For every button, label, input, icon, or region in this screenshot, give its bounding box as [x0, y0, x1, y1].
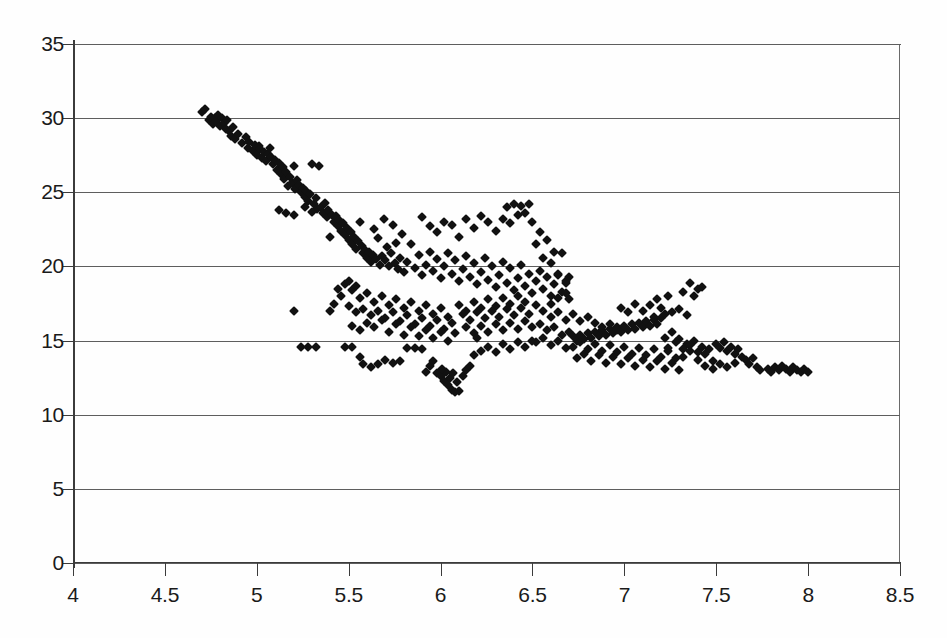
data-point — [557, 248, 567, 258]
data-point — [675, 365, 685, 375]
data-point — [505, 218, 515, 228]
data-point — [421, 300, 431, 310]
y-tick-label: 0 — [53, 551, 64, 575]
data-point — [454, 276, 464, 286]
x-tick-label: 8.5 — [886, 583, 914, 607]
data-point — [505, 263, 515, 273]
data-point — [397, 229, 407, 239]
data-point — [373, 233, 383, 243]
y-tick-label: 5 — [53, 477, 64, 501]
x-tick-mark — [900, 563, 901, 576]
y-tick-mark — [63, 415, 75, 416]
x-tick-mark — [349, 563, 350, 576]
data-point — [483, 217, 493, 227]
gridline-y — [73, 563, 900, 564]
data-point — [483, 294, 493, 304]
data-point — [634, 343, 644, 353]
y-tick-mark — [63, 341, 75, 342]
y-tick-mark — [63, 44, 75, 45]
data-point — [443, 336, 453, 346]
gridline-y — [73, 489, 900, 490]
data-point — [391, 294, 401, 304]
data-point — [678, 287, 688, 297]
data-point — [513, 324, 523, 334]
data-point — [542, 272, 552, 282]
data-point — [550, 279, 560, 289]
x-tick-label: 5 — [251, 583, 262, 607]
data-point — [399, 267, 409, 277]
data-point — [568, 309, 578, 319]
data-point — [436, 303, 446, 313]
data-point — [289, 306, 299, 316]
data-point — [586, 356, 596, 366]
data-point — [414, 331, 424, 341]
gridline-y — [73, 415, 900, 416]
y-tick-mark — [63, 266, 75, 267]
data-point — [406, 297, 416, 307]
x-tick-mark — [808, 563, 809, 576]
data-point — [454, 232, 464, 242]
data-point — [527, 217, 537, 227]
cut-off-caption-strip — [0, 612, 947, 638]
y-tick-mark — [63, 118, 75, 119]
x-tick-mark — [441, 563, 442, 576]
data-point — [410, 263, 420, 273]
data-point — [450, 256, 460, 266]
data-point — [465, 272, 475, 282]
y-tick-label: 10 — [41, 403, 64, 427]
data-point — [502, 278, 512, 288]
data-point — [450, 328, 460, 338]
data-point — [388, 220, 398, 230]
data-point — [476, 267, 486, 277]
data-point — [520, 281, 530, 291]
data-point — [616, 359, 626, 369]
y-tick-label: 20 — [41, 254, 64, 278]
y-tick-mark — [63, 489, 75, 490]
data-point — [494, 270, 504, 280]
data-point — [645, 300, 655, 310]
data-point — [520, 208, 530, 218]
gridline-y — [73, 266, 900, 267]
data-point — [491, 282, 501, 292]
data-point — [432, 227, 442, 237]
data-point — [645, 362, 655, 372]
x-tick-mark — [716, 563, 717, 576]
data-point — [311, 342, 321, 352]
plot-area: 05101520253035 — [73, 44, 900, 563]
gridline-y — [73, 192, 900, 193]
x-tick-mark — [624, 563, 625, 576]
data-point — [513, 273, 523, 283]
x-tick-label: 6 — [435, 583, 446, 607]
data-point — [660, 364, 670, 374]
data-point — [379, 214, 389, 224]
y-tick-label: 30 — [41, 106, 64, 130]
data-point — [399, 330, 409, 340]
x-tick-label: 5.5 — [335, 583, 363, 607]
x-tick-label: 7 — [619, 583, 630, 607]
data-point — [436, 273, 446, 283]
data-point — [469, 223, 479, 233]
data-point — [461, 251, 471, 261]
data-point — [505, 345, 515, 355]
scatter-chart-figure: 05101520253035 44.555.566.577.588.5 — [0, 0, 947, 638]
data-point — [432, 254, 442, 264]
data-point — [336, 291, 346, 301]
gridline-y — [73, 118, 900, 119]
x-tick-label: 6.5 — [518, 583, 546, 607]
data-point — [289, 161, 299, 171]
data-point — [667, 327, 677, 337]
x-tick-mark — [532, 563, 533, 576]
x-tick-label: 4.5 — [151, 583, 179, 607]
data-point — [447, 269, 457, 279]
gridline-y — [73, 44, 900, 45]
data-point — [384, 327, 394, 337]
x-tick-mark — [257, 563, 258, 576]
data-point — [480, 253, 490, 263]
x-tick-mark — [165, 563, 166, 576]
y-tick-label: 35 — [41, 32, 64, 56]
data-point — [491, 347, 501, 357]
data-point — [524, 269, 534, 279]
data-point — [289, 210, 299, 220]
y-tick-label: 25 — [41, 180, 64, 204]
data-point — [649, 345, 659, 355]
